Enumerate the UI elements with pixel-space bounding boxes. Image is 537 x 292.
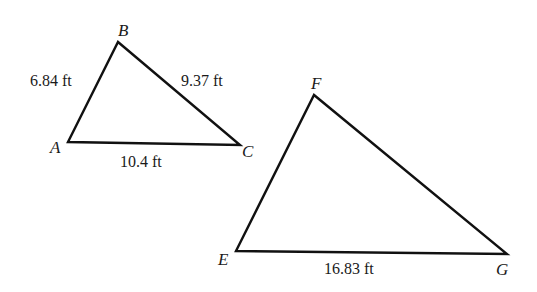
- triangle-efg: [236, 95, 507, 254]
- vertex-label-g: G: [496, 260, 508, 279]
- vertex-label-c: C: [242, 142, 254, 161]
- triangles-figure: A B C 6.84 ft 9.37 ft 10.4 ft E F G 16.8…: [0, 0, 537, 292]
- side-label-ac: 10.4 ft: [120, 153, 162, 170]
- vertex-label-a: A: [49, 138, 61, 157]
- vertex-label-b: B: [118, 21, 129, 40]
- side-label-ab: 6.84 ft: [30, 72, 72, 89]
- side-label-bc: 9.37 ft: [181, 72, 223, 89]
- triangle-abc: [68, 42, 240, 145]
- diagram-canvas: A B C 6.84 ft 9.37 ft 10.4 ft E F G 16.8…: [0, 0, 537, 292]
- vertex-label-f: F: [310, 74, 322, 93]
- vertex-label-e: E: [217, 250, 229, 269]
- side-label-eg: 16.83 ft: [324, 260, 374, 277]
